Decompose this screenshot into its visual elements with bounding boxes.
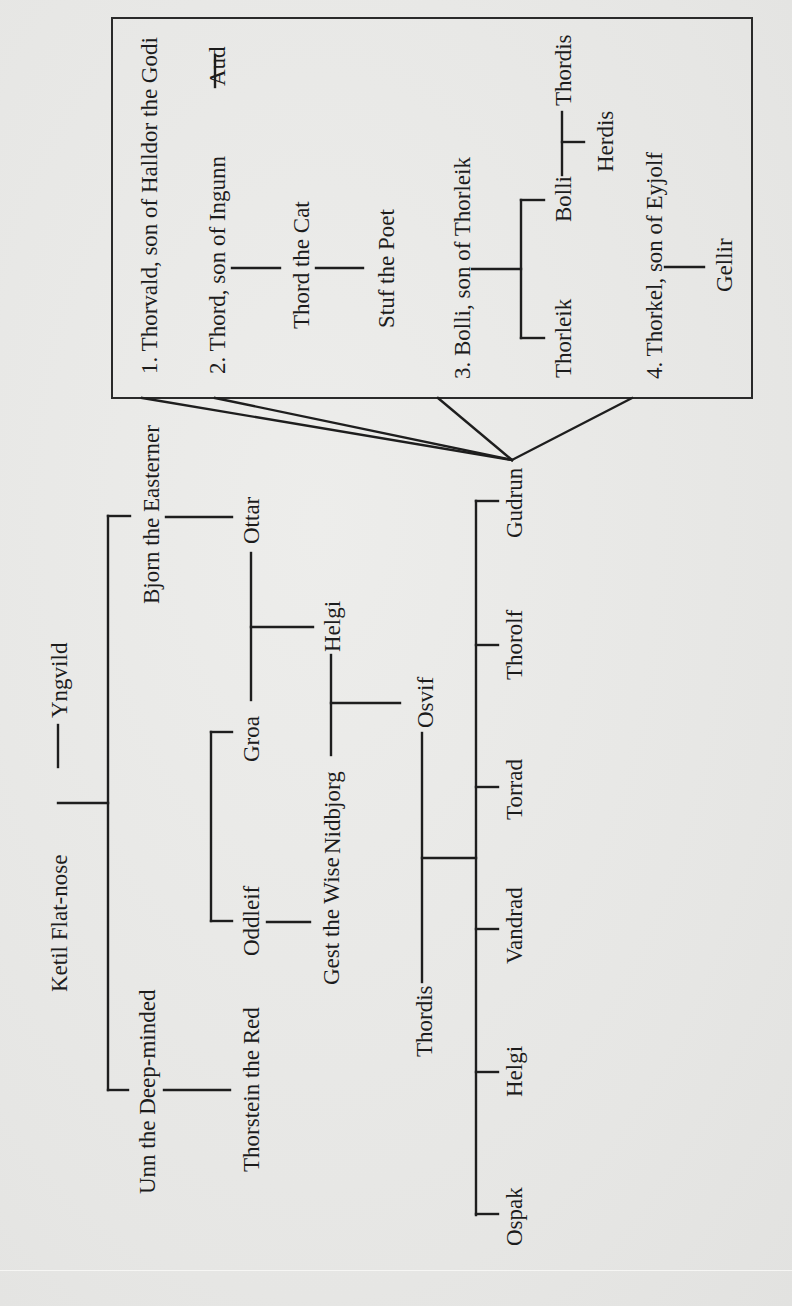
- person-thord-the-cat: Thord the Cat: [290, 201, 313, 329]
- person-gellir: Gellir: [713, 238, 736, 292]
- person-gest-the-wise: Gest the Wise: [320, 857, 343, 985]
- person-bolli: Bolli: [552, 176, 575, 222]
- husband-link-3: [438, 398, 512, 460]
- person-thordis-mother: Thordis: [413, 985, 436, 1057]
- person-thorolf: Thorolf: [503, 610, 526, 680]
- person-helgi-osvifsson: Helgi: [503, 1046, 526, 1097]
- husband-link-1: [142, 398, 512, 460]
- person-helgi-ottarsson: Helgi: [321, 601, 344, 652]
- person-thordis-wife: Thordis: [552, 34, 575, 106]
- genealogy-connector-lines: [0, 0, 792, 1306]
- person-torrad: Torrad: [503, 759, 526, 820]
- person-nidbjorg: Nidbjorg: [321, 771, 344, 854]
- person-bjorn-the-easterner: Bjorn the Easterner: [140, 425, 163, 604]
- person-groa: Groa: [240, 716, 263, 762]
- husband-2-thord: 2. Thord, son of Ingunn: [206, 156, 229, 374]
- person-thorstein-the-red: Thorstein the Red: [240, 1007, 263, 1172]
- person-unn-the-deep-minded: Unn the Deep-minded: [136, 990, 159, 1194]
- husband-link-2: [215, 398, 512, 460]
- person-yngvild: Yngvild: [48, 643, 71, 718]
- husband-4-thorkel: 4. Thorkel, son of Eyjolf: [643, 152, 666, 379]
- person-oddleif: Oddleif: [240, 886, 263, 956]
- person-herdis: Herdis: [594, 111, 617, 172]
- person-ketil-flat-nose: Ketil Flat-nose: [48, 855, 71, 992]
- person-aud: Aud: [206, 46, 229, 86]
- person-vandrad: Vandrad: [503, 887, 526, 964]
- person-gudrun: Gudrun: [503, 468, 526, 538]
- person-thorleik: Thorleik: [552, 299, 575, 378]
- husband-1-thorvald: 1. Thorvald, son of Halldor the Godi: [138, 37, 161, 374]
- person-stuf-the-poet: Stuf the Poet: [375, 209, 398, 328]
- husband-3-bolli: 3. Bolli, son of Thorleik: [451, 157, 474, 379]
- person-ottar: Ottar: [240, 497, 263, 544]
- person-ospak: Ospak: [503, 1187, 526, 1246]
- husband-link-4: [512, 398, 632, 460]
- person-osvif: Osvif: [414, 677, 437, 728]
